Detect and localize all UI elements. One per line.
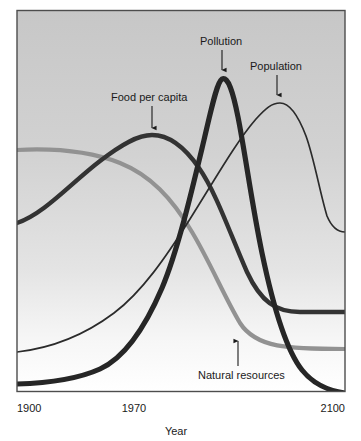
x-axis-title: Year [165,425,188,437]
xtick-label-1970: 1970 [122,402,146,414]
annotation-label-pollution: Pollution [200,35,242,47]
xtick-label-1900: 1900 [17,402,41,414]
annotation-label-natural-resources: Natural resources [198,369,285,381]
annotation-label-population: Population [250,60,302,72]
annotation-label-food-per-capita: Food per capita [111,91,188,103]
xtick-label-2100: 2100 [321,402,345,414]
world-model-limits-to-growth-chart: Food per capita Pollution Population Nat… [0,0,361,441]
figure-container: Food per capita Pollution Population Nat… [0,0,361,441]
